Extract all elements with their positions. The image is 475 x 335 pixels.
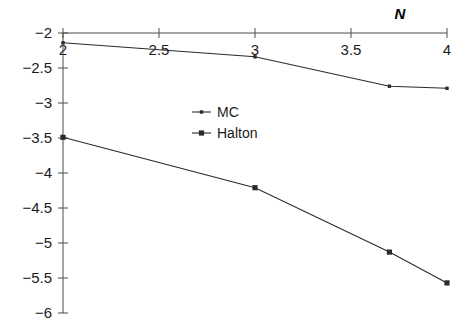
series-layer <box>60 41 449 285</box>
chart-legend: MCHalton <box>192 104 257 141</box>
x-tick-label: 3.5 <box>341 41 362 58</box>
y-axis: −2−2.5−3−3.5−4−4.5−5−5.5−6 <box>22 24 68 321</box>
series-line <box>63 137 447 283</box>
y-tick-label: −2 <box>35 24 52 41</box>
data-point <box>61 41 64 44</box>
y-tick-label: −4 <box>35 164 52 181</box>
x-axis: 22.533.54 <box>59 28 451 58</box>
legend-label: MC <box>217 104 239 120</box>
legend-label: Halton <box>217 125 257 141</box>
y-tick-label: −4.5 <box>22 199 52 216</box>
data-point <box>253 55 256 58</box>
chart-container: 22.533.54 −2−2.5−3−3.5−4−4.5−5−5.5−6 MCH… <box>0 0 475 335</box>
y-tick-label: −6 <box>35 304 52 321</box>
line-chart: 22.533.54 −2−2.5−3−3.5−4−4.5−5−5.5−6 MCH… <box>0 0 475 335</box>
legend-item-halton[interactable]: Halton <box>192 125 257 141</box>
x-tick-label: 4 <box>443 41 451 58</box>
y-tick-label: −5 <box>35 234 52 251</box>
data-point <box>445 87 448 90</box>
x-axis-title-text: N <box>395 5 407 22</box>
series-halton <box>60 135 449 286</box>
y-tick-label: −5.5 <box>22 269 52 286</box>
data-point <box>387 250 392 255</box>
y-tick-label: −3 <box>35 94 52 111</box>
legend-item-mc[interactable]: MC <box>192 104 239 120</box>
data-point <box>444 280 449 285</box>
legend-marker <box>199 130 204 135</box>
data-point <box>60 135 65 140</box>
y-tick-label: −3.5 <box>22 129 52 146</box>
x-axis-title: N <box>395 5 407 22</box>
data-point <box>252 185 257 190</box>
data-point <box>388 85 391 88</box>
y-tick-label: −2.5 <box>22 59 52 76</box>
legend-marker <box>200 110 203 113</box>
